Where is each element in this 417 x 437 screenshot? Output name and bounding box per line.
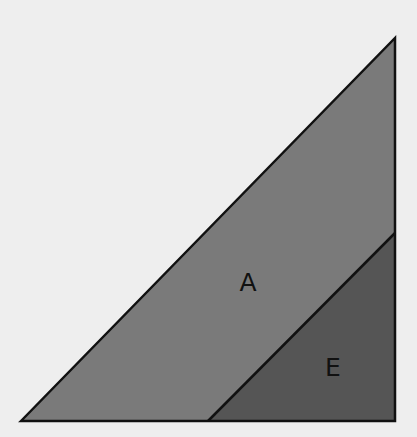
label-e: E bbox=[325, 353, 341, 382]
diagram-canvas: A E bbox=[0, 0, 417, 437]
triangle-diagram: A E bbox=[0, 0, 417, 437]
label-a: A bbox=[239, 268, 256, 297]
